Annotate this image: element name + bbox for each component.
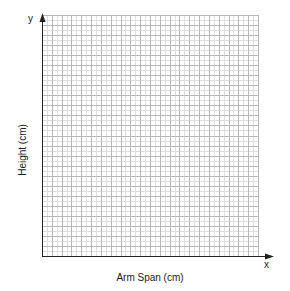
x-axis-letter: x	[264, 259, 269, 270]
x-axis-title: Arm Span (cm)	[0, 272, 290, 283]
graph-paper-chart: y x Height (cm) Arm Span (cm)	[0, 0, 290, 291]
y-axis-letter: y	[28, 13, 33, 24]
y-axis-arrow-icon	[40, 13, 46, 22]
plot-area	[0, 0, 290, 291]
y-axis-title: Height (cm)	[17, 124, 28, 176]
